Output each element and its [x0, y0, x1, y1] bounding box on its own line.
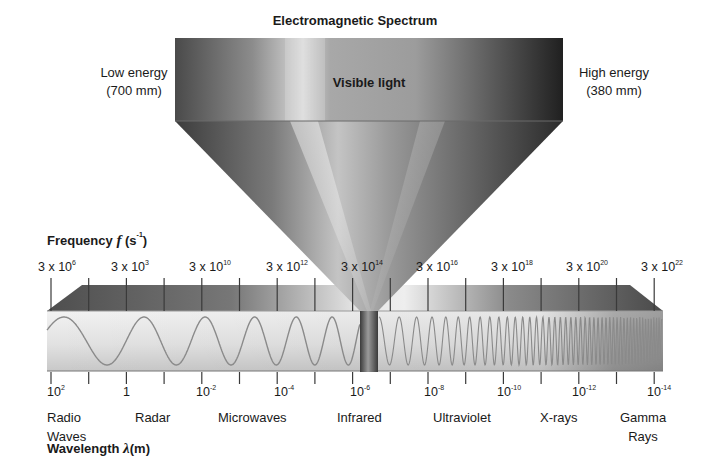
frequency-unit-close: ): [143, 233, 147, 248]
wavelength-axis-title: Wavelength λ(m): [47, 440, 150, 457]
frequency-label: 3 x 1022: [641, 260, 683, 274]
region-infrared: Infrared: [337, 408, 407, 427]
frequency-label: 3 x 1020: [566, 260, 608, 274]
region-microwaves: Microwaves: [218, 408, 308, 427]
wavelength-label: 10-8: [424, 385, 444, 399]
wavelength-title-text: Wavelength: [47, 441, 119, 456]
wavelength-label: 10-4: [274, 385, 294, 399]
frequency-label: 3 x 1016: [416, 260, 458, 274]
region-x-rays: X-rays: [540, 408, 600, 427]
wavelength-label: 10-2: [196, 385, 216, 399]
frequency-unit-exponent: -1: [137, 231, 143, 238]
region-gamma-rays: GammaRays: [617, 408, 669, 446]
wavelength-label: 10-6: [350, 385, 370, 399]
visible-light-strip: [360, 311, 378, 372]
region-ultraviolet: Ultraviolet: [433, 408, 513, 427]
frequency-title-text: Frequency: [47, 233, 113, 248]
wavelength-label: 10-10: [497, 385, 521, 399]
low-energy-label: Low energy (700 mm): [88, 64, 180, 100]
low-energy-wavelength: (700 mm): [88, 82, 180, 100]
frequency-label: 3 x 106: [38, 260, 76, 274]
frequency-axis-title: Frequency f (s-1): [47, 232, 147, 249]
frequency-label: 3 x 1012: [266, 260, 308, 274]
high-energy-label: High energy (380 mm): [568, 64, 660, 100]
low-energy-text: Low energy: [88, 64, 180, 82]
frequency-symbol: f: [116, 232, 121, 248]
frequency-label: 3 x 1014: [341, 260, 383, 274]
wavelength-unit: (m): [130, 441, 150, 456]
wavelength-label: 10-12: [572, 385, 596, 399]
region-radar: Radar: [135, 408, 195, 427]
wavelength-symbol: λ: [123, 440, 130, 456]
visible-light-cone: [175, 121, 563, 311]
wavelength-label: 10-14: [647, 385, 671, 399]
frequency-label: 3 x 103: [111, 260, 149, 274]
diagram-title: Electromagnetic Spectrum: [0, 13, 710, 28]
wavelength-label: 1: [123, 385, 130, 399]
high-energy-text: High energy: [568, 64, 660, 82]
visible-light-label: Visible light: [175, 75, 563, 90]
frequency-label: 3 x 1018: [491, 260, 533, 274]
frequency-unit: (s: [125, 233, 137, 248]
frequency-label: 3 x 1010: [189, 260, 231, 274]
high-energy-wavelength: (380 mm): [568, 82, 660, 100]
wavelength-label: 102: [47, 385, 65, 399]
